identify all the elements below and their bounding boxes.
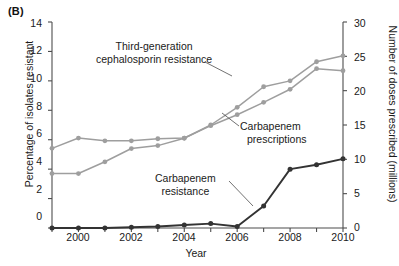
plot-area: [0, 0, 392, 266]
figure-panel-b: (B) Percentage of isolates resistant Num…: [0, 0, 392, 266]
